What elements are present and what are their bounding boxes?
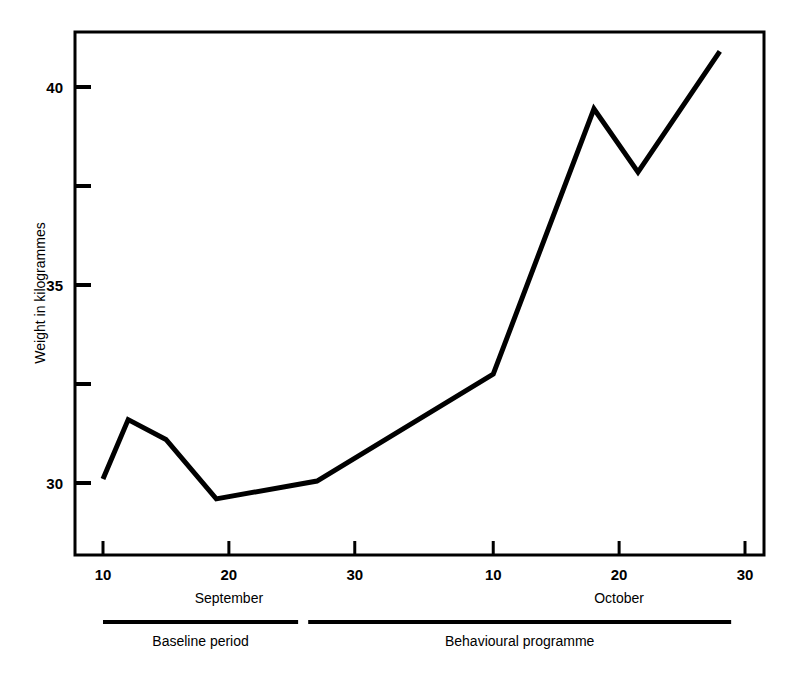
x-tick-label: 30: [346, 566, 363, 583]
month-label: September: [195, 590, 264, 606]
month-label: October: [594, 590, 644, 606]
x-tick-label: 30: [737, 566, 754, 583]
weight-line-chart: 303540 102030102030 SeptemberOctober Bas…: [0, 0, 790, 673]
y-tick-label: 40: [46, 79, 63, 96]
x-tick-label: 10: [95, 566, 112, 583]
x-tick-label: 20: [221, 566, 238, 583]
chart-figure: 303540 102030102030 SeptemberOctober Bas…: [0, 0, 790, 673]
y-tick-label: 30: [46, 475, 63, 492]
y-axis-title: Weight in kilogrammes: [32, 222, 48, 363]
x-tick-label: 10: [485, 566, 502, 583]
y-tick-label: 35: [46, 277, 63, 294]
chart-background: [0, 0, 790, 673]
period-bar-label: Baseline period: [152, 633, 249, 649]
period-bar-label: Behavioural programme: [445, 633, 595, 649]
x-tick-label: 20: [611, 566, 628, 583]
